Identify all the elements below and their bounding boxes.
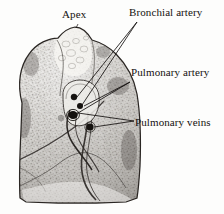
- label-bronchial-artery: Bronchial artery: [129, 6, 202, 18]
- pulmonary-artery-opening: [68, 111, 77, 119]
- bronchial-artery-opening-2: [77, 103, 83, 109]
- label-pulmonary-veins: Pulmonary veins: [135, 116, 211, 128]
- lung-illustration: [0, 0, 224, 214]
- anatomy-figure: Apex Bronchial artery Pulmonary artery P…: [0, 0, 224, 214]
- lung-body: [0, 0, 224, 214]
- label-apex: Apex: [62, 8, 86, 20]
- pulmonary-vein-opening: [86, 123, 93, 130]
- label-pulmonary-artery: Pulmonary artery: [131, 66, 209, 78]
